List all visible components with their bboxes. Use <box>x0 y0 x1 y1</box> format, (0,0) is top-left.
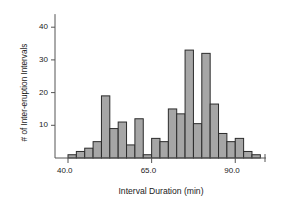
histogram-bar <box>160 142 168 158</box>
histogram-figure: # of Inter-eruption Intervals Interval D… <box>0 0 284 210</box>
histogram-bar <box>244 151 252 158</box>
histogram-bar <box>152 138 160 158</box>
histogram-bar <box>135 119 143 158</box>
histogram-bar <box>227 142 235 158</box>
histogram-bar <box>168 109 176 158</box>
histogram-bar <box>85 148 93 158</box>
histogram-bar <box>127 145 135 158</box>
histogram-bar <box>93 142 101 158</box>
y-tick-label-20: 20 <box>0 88 48 97</box>
plot-area <box>0 0 284 210</box>
histogram-bar <box>185 50 193 158</box>
histogram-bar <box>101 96 109 158</box>
histogram-bar <box>193 124 201 158</box>
histogram-bar <box>210 104 218 158</box>
y-tick-label-10: 10 <box>0 120 48 129</box>
histogram-bar <box>219 133 227 158</box>
histogram-bar <box>235 138 243 158</box>
x-axis-label: Interval Duration (min) <box>56 186 266 196</box>
chart-canvas <box>0 0 284 210</box>
y-tick-label-30: 30 <box>0 55 48 64</box>
bar-series <box>68 50 260 158</box>
y-tick-label-40: 40 <box>0 22 48 31</box>
histogram-bar <box>177 114 185 158</box>
histogram-bar <box>110 129 118 158</box>
histogram-bar <box>76 151 84 158</box>
x-tick-label-90: 90.0 <box>0 166 284 175</box>
histogram-bar <box>202 53 210 158</box>
histogram-bar <box>118 122 126 158</box>
